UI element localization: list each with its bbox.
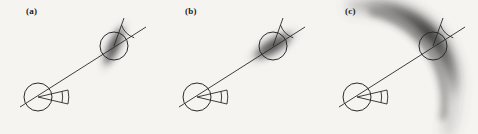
scattering-geometry-figure: (a) — [0, 0, 478, 134]
panel-c: (c) — [319, 0, 478, 134]
source-angle-wedge — [357, 90, 388, 104]
beam-line — [179, 27, 305, 107]
beam-line — [20, 27, 146, 107]
panel-a: (a) — [0, 0, 159, 134]
scattering-blob — [352, 4, 454, 130]
panel-b: (b) — [159, 0, 318, 134]
panel-a-canvas — [0, 0, 159, 134]
panel-label-a: (a) — [26, 6, 37, 16]
panel-label-c: (c) — [345, 6, 356, 16]
source-angle-wedge — [197, 90, 228, 104]
panel-label-b: (b) — [185, 6, 197, 16]
panel-b-canvas — [159, 0, 318, 134]
source-angle-wedge — [38, 90, 69, 104]
panel-c-canvas — [319, 0, 478, 134]
